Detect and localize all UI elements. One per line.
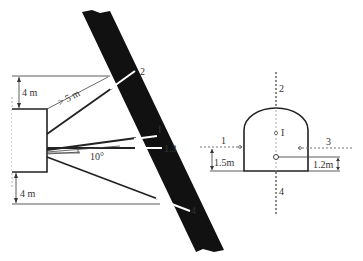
hole-label-I: I [158, 124, 161, 135]
arrowhead-icon [17, 103, 21, 108]
arrowhead-icon [336, 158, 340, 161]
arrowhead-icon [210, 149, 214, 153]
drill-hole-4 [47, 157, 158, 199]
hole-label-2: 2 [279, 83, 284, 94]
hole-label-1-3: 1.3 [164, 143, 177, 154]
right-view: 1 2 3 4 I 1.5m 1.2m [200, 72, 354, 215]
centre-marker [274, 155, 279, 160]
bottom-offset-label: 4 m [20, 188, 36, 199]
hole-label-2: 2 [140, 66, 145, 77]
min-distance-label: > 5 m [56, 87, 82, 108]
hole-label-4: 4 [191, 205, 196, 216]
hole-label-I: I [281, 127, 284, 138]
drill-chamber [12, 109, 47, 172]
left-view: 4 m 4 m > 5 m 10° 2 I 1.3 4 [12, 10, 224, 252]
right-height-label: 1.2m [313, 159, 334, 170]
hole-label-3: 3 [326, 136, 331, 147]
hole-label-4: 4 [279, 186, 284, 197]
hole-label-1: 1 [221, 135, 226, 146]
top-offset-label: 4 m [22, 87, 38, 98]
angle-label: 10° [90, 151, 104, 162]
drilling-layout-diagram: 4 m 4 m > 5 m 10° 2 I 1.3 4 [0, 0, 363, 261]
rock-band [82, 10, 224, 252]
arrowhead-icon [336, 167, 340, 170]
left-height-label: 1.5m [214, 157, 235, 168]
arrowhead-icon [14, 198, 18, 203]
arrowhead-icon [17, 77, 21, 82]
arrowhead-icon [14, 173, 18, 178]
